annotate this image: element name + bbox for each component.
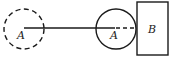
initial-circle-label: A <box>16 29 25 42</box>
initial-circle-a: A <box>4 9 44 49</box>
block-label: B <box>147 23 156 36</box>
block-b: B <box>137 2 168 55</box>
final-circle-label: A <box>109 29 118 42</box>
diagram-canvas: A A B <box>0 0 170 64</box>
final-circle-a: A <box>96 9 136 49</box>
